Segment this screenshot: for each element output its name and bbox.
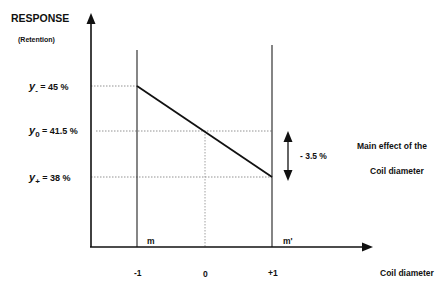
- x-axis-arrow-icon: [362, 243, 373, 252]
- effect-label-line1: Main effect of the: [357, 141, 427, 151]
- y-axis-arrow-icon: [87, 13, 96, 24]
- x-tick-0: 0: [203, 269, 208, 279]
- level-label-y-minus: y- = 45 %: [29, 80, 69, 95]
- point-label-m-prime: m': [283, 236, 293, 246]
- x-tick-minus-1: -1: [134, 268, 142, 278]
- arrow-up-icon: [284, 131, 293, 142]
- arrow-down-icon: [284, 170, 293, 181]
- y-axis-subtitle: (Retention): [18, 36, 55, 43]
- effect-label-line2: Coil diameter: [370, 166, 424, 176]
- delta-label: - 3.5 %: [300, 151, 327, 161]
- point-label-m: m: [147, 236, 155, 246]
- level-label-y-plus: y+ = 38 %: [29, 171, 71, 186]
- y-axis-title: RESPONSE: [11, 12, 69, 24]
- x-axis-title: Coil diameter: [380, 268, 434, 278]
- effect-line: [137, 86, 272, 177]
- x-tick-plus-1: +1: [268, 268, 278, 278]
- level-label-y-zero: y0 = 41.5 %: [29, 124, 78, 139]
